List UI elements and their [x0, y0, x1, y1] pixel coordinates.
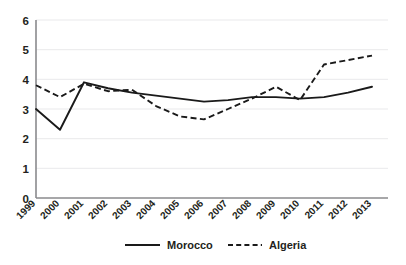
x-tick-label: 2001 [62, 197, 86, 221]
y-tick-label: 6 [23, 15, 29, 27]
x-tick-label: 2011 [302, 197, 325, 220]
y-tick-label: 3 [23, 104, 29, 116]
legend: Morocco Algeria [125, 239, 307, 251]
series-line-morocco [36, 82, 372, 129]
legend-label-morocco: Morocco [167, 239, 213, 251]
x-tick-label: 2004 [134, 197, 158, 221]
x-tick-label: 2003 [110, 197, 134, 221]
x-tick-label: 2013 [350, 197, 374, 221]
y-tick-label: 5 [23, 44, 30, 56]
x-tick-label: 2005 [158, 197, 182, 221]
y-tick-label: 2 [23, 133, 29, 145]
chart-canvas: 6 5 4 3 2 1 0 1999 2000 2001 2002 2003 2… [0, 0, 406, 265]
x-tick-label: 2006 [182, 197, 206, 221]
x-tick-label: 2008 [230, 197, 254, 221]
x-tick-label: 2000 [38, 197, 62, 221]
x-tick-label: 2012 [326, 197, 350, 221]
line-chart: 6 5 4 3 2 1 0 1999 2000 2001 2002 2003 2… [0, 0, 406, 265]
x-axis-tick-labels: 1999 2000 2001 2002 2003 2004 2005 2006 … [14, 197, 374, 221]
x-tick-label: 1999 [14, 197, 38, 221]
legend-label-algeria: Algeria [269, 239, 307, 251]
y-tick-label: 1 [23, 163, 30, 175]
y-tick-label: 4 [23, 74, 30, 86]
data-series [36, 56, 372, 130]
x-tick-label: 2009 [254, 197, 278, 221]
x-tick-label: 2010 [278, 197, 302, 221]
series-line-algeria [36, 56, 372, 120]
x-tick-label: 2007 [206, 197, 230, 221]
y-axis-tick-labels: 6 5 4 3 2 1 0 [23, 15, 30, 205]
x-tick-label: 2002 [86, 197, 110, 221]
